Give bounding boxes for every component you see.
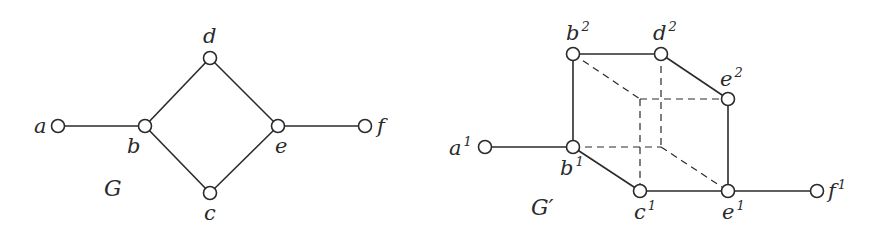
vertex-e1 xyxy=(722,185,735,198)
vertex-f1 xyxy=(811,185,824,198)
vertex-e xyxy=(272,120,285,133)
vertex-label-d2: d2 xyxy=(653,19,677,45)
edge-c-e xyxy=(210,126,278,193)
vertex-label-f1: f1 xyxy=(826,177,846,203)
graph-G-title: G xyxy=(104,176,122,201)
graph-G-prime-nodes: a1b1b2d2e2c1e1f1 xyxy=(449,19,846,224)
edge-b-d xyxy=(145,58,210,126)
vertex-c1 xyxy=(634,185,647,198)
vertex-b1 xyxy=(567,141,580,154)
graph-G: abdcef G xyxy=(34,24,388,225)
vertex-label-e: e xyxy=(275,134,287,158)
edge-d-e xyxy=(210,58,278,126)
vertex-label-c1: c1 xyxy=(634,198,656,224)
vertex-label-b1: b1 xyxy=(560,154,584,180)
graph-G-edges xyxy=(58,58,365,193)
vertex-label-f: f xyxy=(375,114,388,138)
edge-b-c xyxy=(145,126,210,193)
vertex-b2 xyxy=(567,48,580,61)
vertex-f xyxy=(359,120,372,133)
vertex-label-c: c xyxy=(204,201,216,225)
edge-d2-e2 xyxy=(661,54,728,99)
graph-diagram: abdcef G a1b1b2d2e2c1e1f1 G′ xyxy=(0,0,873,233)
edge-b2-h1 xyxy=(573,54,640,99)
vertex-a1 xyxy=(479,141,492,154)
vertex-d xyxy=(204,52,217,65)
edge-h2-e1 xyxy=(661,147,728,191)
vertex-label-a1: a1 xyxy=(449,134,472,160)
vertex-label-a: a xyxy=(34,114,47,138)
vertex-c xyxy=(204,187,217,200)
graph-G-prime-title: G′ xyxy=(531,195,554,220)
vertex-label-d: d xyxy=(203,24,216,48)
vertex-a xyxy=(52,120,65,133)
vertex-label-b: b xyxy=(127,134,140,158)
vertex-e2 xyxy=(722,93,735,106)
vertex-b xyxy=(139,120,152,133)
graph-G-prime-edges xyxy=(485,54,817,191)
vertex-label-b2: b2 xyxy=(566,19,590,45)
vertex-d2 xyxy=(655,48,668,61)
vertex-label-e2: e2 xyxy=(720,65,743,91)
graph-G-prime: a1b1b2d2e2c1e1f1 G′ xyxy=(449,19,846,224)
graph-G-nodes: abdcef xyxy=(34,24,388,225)
vertex-label-e1: e1 xyxy=(722,198,745,224)
